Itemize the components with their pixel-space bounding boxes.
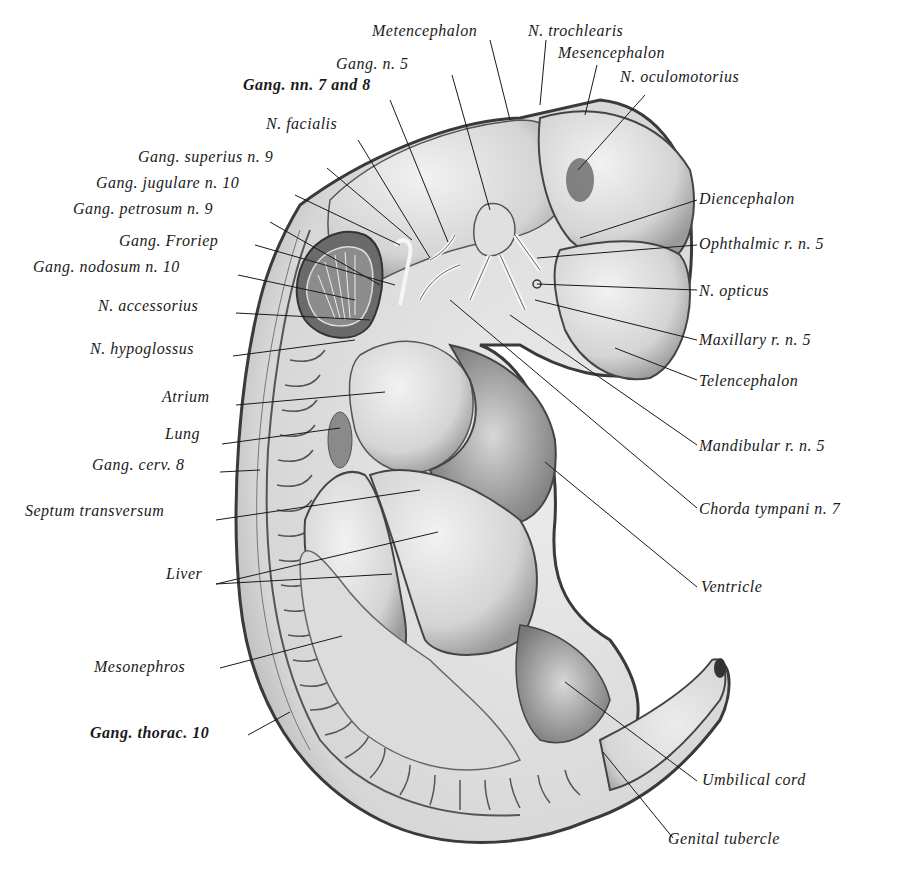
label-n-opticus: N. opticus bbox=[699, 282, 769, 300]
label-gang-thorac10: Gang. thorac. 10 bbox=[90, 724, 209, 742]
label-diencephalon: Diencephalon bbox=[699, 190, 795, 208]
label-ophthalmic: Ophthalmic r. n. 5 bbox=[699, 235, 824, 253]
label-gang-nn-7-8: Gang. nn. 7 and 8 bbox=[243, 76, 371, 94]
label-gang-n5: Gang. n. 5 bbox=[336, 55, 409, 73]
atrium-shape bbox=[349, 341, 473, 472]
label-gang-superius-n9: Gang. superius n. 9 bbox=[138, 148, 273, 166]
gang-n5-shape bbox=[474, 204, 515, 256]
label-telencephalon: Telencephalon bbox=[699, 372, 798, 390]
label-genital-tubercle: Genital tubercle bbox=[668, 830, 780, 848]
label-maxillary: Maxillary r. n. 5 bbox=[699, 331, 811, 349]
label-gang-jugulare-n10: Gang. jugulare n. 10 bbox=[96, 174, 239, 192]
label-septum-transversum: Septum transversum bbox=[25, 502, 164, 520]
label-n-accessorius: N. accessorius bbox=[98, 297, 198, 315]
label-atrium: Atrium bbox=[162, 388, 209, 406]
label-chorda-tympani: Chorda tympani n. 7 bbox=[699, 500, 840, 518]
tail-tip bbox=[714, 658, 726, 678]
label-mesonephros: Mesonephros bbox=[94, 658, 185, 676]
label-gang-nodosum-n10: Gang. nodosum n. 10 bbox=[33, 258, 180, 276]
lung-shape bbox=[328, 412, 352, 468]
label-ventricle: Ventricle bbox=[701, 578, 762, 596]
label-lung: Lung bbox=[165, 425, 200, 443]
label-mandibular: Mandibular r. n. 5 bbox=[699, 437, 825, 455]
label-n-hypoglossus: N. hypoglossus bbox=[90, 340, 194, 358]
label-gang-petrosum-n9: Gang. petrosum n. 9 bbox=[73, 200, 213, 218]
label-n-trochlearis: N. trochlearis bbox=[528, 22, 623, 40]
oculomotor-shadow bbox=[566, 158, 594, 202]
label-n-oculomotorius: N. oculomotorius bbox=[620, 68, 739, 86]
label-gang-froriep: Gang. Froriep bbox=[119, 232, 218, 250]
label-mesencephalon: Mesencephalon bbox=[558, 44, 665, 62]
embryo-figure: Metencephalon N. trochlearis Mesencephal… bbox=[0, 0, 905, 887]
label-gang-cerv8: Gang. cerv. 8 bbox=[92, 456, 184, 474]
label-liver: Liver bbox=[166, 565, 202, 583]
label-umbilical-cord: Umbilical cord bbox=[702, 771, 806, 789]
label-metencephalon: Metencephalon bbox=[372, 22, 477, 40]
label-n-facialis: N. facialis bbox=[266, 115, 337, 133]
